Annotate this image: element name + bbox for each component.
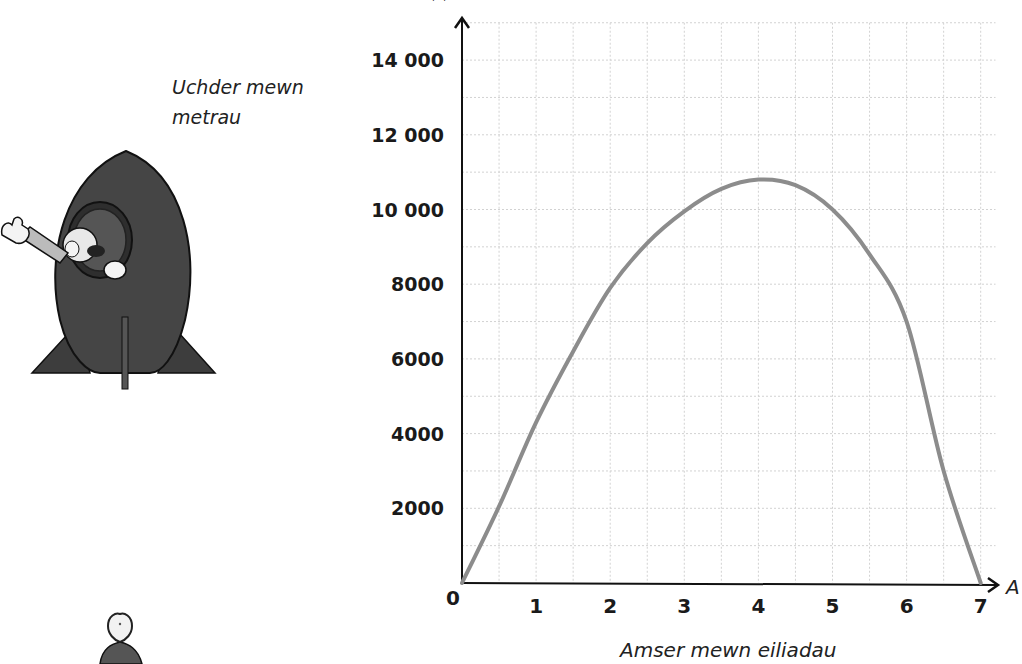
y-axis-title: Uchder mewn metrau <box>172 72 342 132</box>
y-tick-label: 12 000 <box>371 124 444 146</box>
x-tick-label: 5 <box>826 594 840 618</box>
x-tick-label: 7 <box>974 594 988 618</box>
x-tick-label: 2 <box>603 594 617 618</box>
y-tick-label: 2000 <box>391 497 444 519</box>
x-axis <box>462 583 996 585</box>
y-tick-label: 10 000 <box>371 199 444 221</box>
x-tick-label: 4 <box>751 594 765 618</box>
x-tick-label: 6 <box>900 594 914 618</box>
rocket-astronaut-icon <box>0 145 230 390</box>
x-tick-label: 3 <box>677 594 691 618</box>
y-tick-label: 8000 <box>391 273 444 295</box>
y-tick-label: 6000 <box>391 348 444 370</box>
y-tick-label: 14 000 <box>371 49 444 71</box>
x-tick-label: 1 <box>529 594 543 618</box>
x-axis-title: Amser mewn eiliadau <box>620 638 837 662</box>
x-tick-label: 0 <box>446 586 460 610</box>
person-figure-icon <box>94 612 154 664</box>
x-axis-letter: A <box>1006 575 1020 599</box>
y-tick-label: 4000 <box>391 423 444 445</box>
grid-lines <box>462 23 996 583</box>
cut-off-title-fragment: ◠ <box>432 0 446 9</box>
